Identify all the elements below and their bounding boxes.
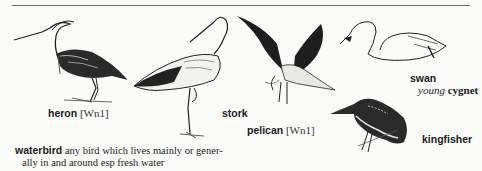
top-rule	[12, 5, 470, 6]
swan-label: swan	[410, 72, 436, 84]
definition-line-2: ally in and around esp fresh water	[15, 157, 245, 169]
pelican-label: pelican [Wn1]	[247, 124, 315, 136]
pelican-code: [Wn1]	[286, 124, 315, 136]
heron-label: heron [Wn1]	[48, 107, 109, 119]
swan-word: swan	[410, 72, 436, 84]
kingfisher-illustration-icon	[328, 90, 418, 160]
swan-illustration-icon	[338, 14, 450, 64]
cygnet-word: cygnet	[448, 84, 479, 96]
heron-illustration-icon	[12, 10, 127, 105]
pelican-word: pelican	[247, 124, 283, 136]
pelican-illustration-icon	[235, 10, 335, 110]
heron-code: [Wn1]	[80, 107, 109, 119]
young-text: young	[418, 84, 445, 96]
stork-illustration-icon	[134, 8, 234, 138]
kingfisher-label: kingfisher	[422, 133, 472, 145]
definition-line-1: any bird which lives mainly or gener-	[65, 145, 223, 156]
waterbird-definition: waterbird any bird which lives mainly or…	[15, 145, 245, 168]
swan-young-label: young cygnet	[418, 84, 478, 96]
kingfisher-word: kingfisher	[422, 133, 472, 145]
definition-headword: waterbird	[15, 144, 62, 156]
heron-word: heron	[48, 107, 77, 119]
